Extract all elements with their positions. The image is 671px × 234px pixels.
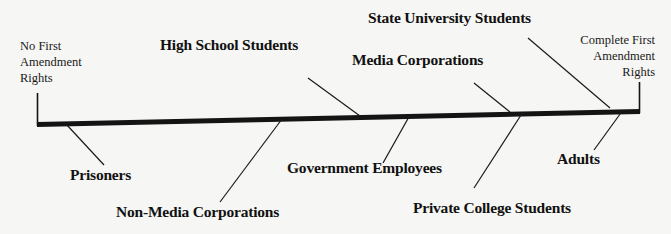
right-end-label-line-2: Amendment <box>580 48 655 64</box>
label-private-college-students: Private College Students <box>413 199 571 217</box>
label-prisoners: Prisoners <box>70 166 131 184</box>
left-end-label: No First Amendment Rights <box>20 38 82 86</box>
main-axis-line <box>37 112 640 125</box>
connector-prisoners <box>66 124 104 165</box>
label-government-employees: Government Employees <box>287 159 442 177</box>
first-amendment-rights-continuum: No First Amendment Rights Complete First… <box>0 0 671 234</box>
label-adults: Adults <box>557 150 600 168</box>
connector-government-employees <box>383 115 410 163</box>
label-state-university-students: State University Students <box>368 9 531 27</box>
left-end-label-line-2: Amendment <box>20 54 82 70</box>
label-high-school-students: High School Students <box>160 36 298 54</box>
right-end-label: Complete First Amendment Rights <box>580 32 655 80</box>
connector-non-media-corporations <box>220 119 282 202</box>
right-end-label-line-3: Rights <box>580 64 655 80</box>
label-media-corporations: Media Corporations <box>352 51 483 69</box>
left-end-label-line-3: Rights <box>20 70 82 86</box>
connector-media-corporations <box>474 83 510 112</box>
right-end-label-line-1: Complete First <box>580 32 655 48</box>
connector-adults <box>594 110 623 150</box>
connector-private-college-students <box>474 112 523 188</box>
left-end-label-line-1: No First <box>20 38 82 54</box>
label-non-media-corporations: Non-Media Corporations <box>116 203 279 221</box>
connector-high-school-students <box>308 78 360 116</box>
